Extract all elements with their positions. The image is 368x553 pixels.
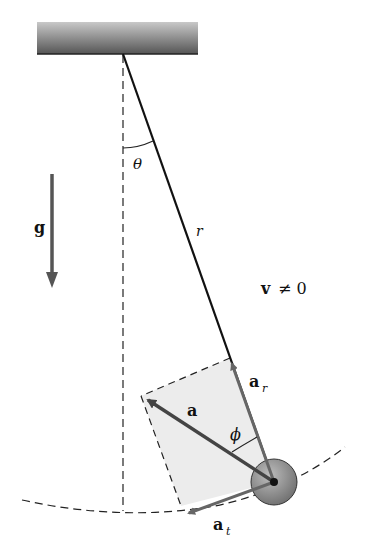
pendulum-diagram: θ r g v ≠ 0 a r a t a ϕ xyxy=(0,0,368,553)
length-label: r xyxy=(196,223,204,239)
phi-label: ϕ xyxy=(230,425,241,444)
radial-accel-label: a xyxy=(249,372,259,391)
velocity-label: v xyxy=(260,279,271,298)
tangential-accel-label: a xyxy=(213,515,223,534)
theta-arc xyxy=(123,141,153,148)
theta-label: θ xyxy=(133,155,142,173)
ceiling xyxy=(37,22,198,54)
tangential-accel-subscript: t xyxy=(226,525,231,538)
radial-accel-subscript: r xyxy=(262,382,268,395)
gravity-label: g xyxy=(34,218,45,237)
velocity-condition: ≠ 0 xyxy=(278,279,307,298)
total-accel-label: a xyxy=(187,401,197,420)
